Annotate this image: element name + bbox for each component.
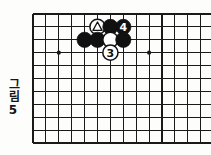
star-point (57, 51, 61, 55)
star-point (147, 51, 151, 55)
go-stone-white-move-3: 3 (103, 45, 118, 60)
figure-caption-number: 5 (4, 104, 22, 116)
go-stone-black-d (116, 32, 131, 47)
figure-caption-label: 그림 (7, 78, 19, 102)
figure-caption: 그림 5 (4, 78, 22, 116)
go-diagram-figure: 43 그림 5 (0, 0, 211, 155)
stone-move-number: 3 (107, 47, 115, 60)
go-board: 43 (0, 0, 211, 155)
black-stone (116, 32, 131, 47)
